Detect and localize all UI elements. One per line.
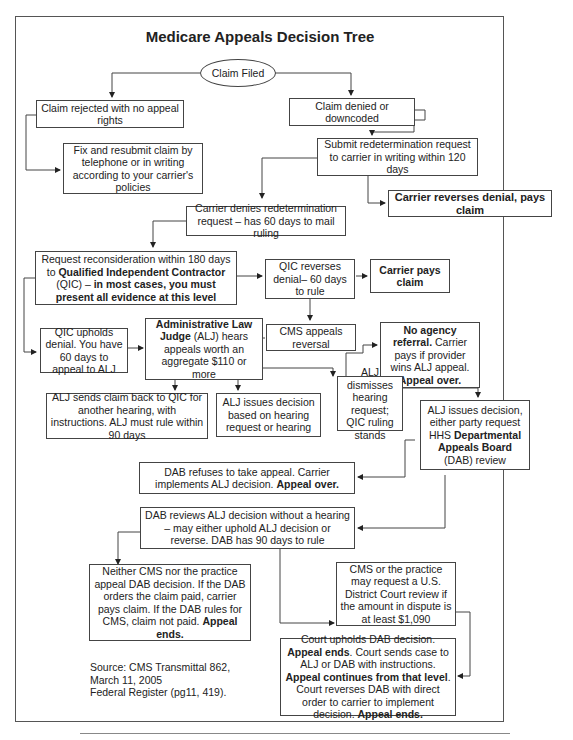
carrier-reverses-text: Carrier reverses denial, pays claim (392, 191, 548, 216)
node-alj: Administrative Law Judge (ALJ) hears app… (145, 318, 263, 380)
node-carrier-reverses: Carrier reverses denial, pays claim (388, 190, 552, 217)
reconsideration-text: Request reconsideration within 180 days … (39, 253, 233, 303)
node-dab-refuses: DAB refuses to take appeal. Carrier impl… (139, 462, 355, 494)
node-reconsideration: Request reconsideration within 180 days … (35, 251, 237, 305)
node-claim-filed: Claim Filed (200, 59, 276, 87)
source-line-2: March 11, 2005 (90, 674, 230, 687)
carrier-pays-text: Carrier pays claim (374, 264, 446, 289)
node-dab-reviews: DAB reviews ALJ decision without a heari… (140, 507, 355, 549)
node-claim-rejected: Claim rejected with no appeal rights (36, 100, 184, 128)
node-alj-dismisses: ALJ dismisses hearing request; QIC rulin… (337, 376, 403, 431)
node-redetermination: Submit redetermination request to carrie… (317, 138, 478, 176)
node-neither-appeal: Neither CMS nor the practice appeal DAB … (89, 564, 251, 641)
neither-appeal-text: Neither CMS nor the practice appeal DAB … (93, 565, 247, 640)
node-district-court: CMS or the practice may request a U.S. D… (336, 562, 456, 626)
dab-refuses-text: DAB refuses to take appeal. Carrier impl… (143, 466, 351, 491)
node-carrier-pays: Carrier pays claim (370, 259, 450, 293)
node-cms-appeals: CMS appeals reversal (266, 324, 356, 351)
node-alj-issues-dab: ALJ issues decision, either party reques… (420, 400, 530, 470)
node-alj-sends-back: ALJ sends claim back to QIC for another … (46, 393, 208, 439)
node-claim-denied: Claim denied or downcoded (289, 98, 415, 126)
node-qic-upholds: QIC upholds denial. You have 60 days to … (40, 328, 128, 373)
node-court: Court upholds DAB decision. Appeal ends.… (280, 638, 456, 716)
node-qic-reverses: QIC reverses denial– 60 days to rule (265, 259, 355, 299)
node-carrier-denies: Carrier denies redetermination request –… (186, 206, 346, 236)
court-text: Court upholds DAB decision. Appeal ends.… (284, 633, 452, 721)
alj-text: Administrative Law Judge (ALJ) hears app… (149, 318, 259, 381)
alj-issues-dab-text: ALJ issues decision, either party reques… (424, 404, 526, 467)
source-line-3: Federal Register (pg11, 419). (90, 686, 230, 699)
node-alj-issues-hearing: ALJ issues decision based on hearing req… (216, 393, 321, 437)
source-citation: Source: CMS Transmittal 862, March 11, 2… (90, 661, 230, 699)
source-line-1: Source: CMS Transmittal 862, (90, 661, 230, 674)
node-fix-resubmit: Fix and resubmit claim by telephone or i… (63, 143, 203, 194)
